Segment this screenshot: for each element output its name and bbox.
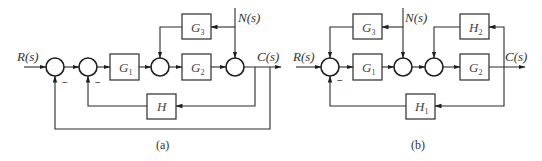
sum-junction-1: [321, 58, 339, 76]
sum-junction-3: [425, 58, 443, 76]
minus-sign: −: [337, 75, 343, 86]
diagram-a: R(s) G1 G2 N(s) G3 C(s) H −: [16, 8, 281, 152]
block-diagrams: R(s) G1 G2 N(s) G3 C(s) H −: [0, 0, 542, 161]
sum-junction-4: [226, 58, 244, 76]
feedback-line: [489, 27, 504, 67]
sum-junction-1: [46, 58, 64, 76]
disturbance-label-n: N(s): [404, 10, 427, 25]
sum-junction-3: [151, 58, 169, 76]
signal-line: [330, 27, 353, 58]
diagram-b: R(s) G1 G2 C(s) N(s) G3 H2 H: [292, 8, 527, 152]
input-label-r: R(s): [16, 49, 39, 64]
signal-line: [160, 27, 182, 58]
caption-b: (b): [411, 138, 425, 152]
output-label-c: C(s): [257, 49, 279, 64]
sum-junction-2: [394, 58, 412, 76]
sum-junction-2: [79, 58, 97, 76]
signal-line: [434, 27, 460, 58]
disturbance-label-n: N(s): [237, 10, 260, 25]
block-h-label: H: [156, 99, 167, 114]
minus-sign: −: [62, 77, 68, 88]
minus-sign: −: [95, 77, 101, 88]
input-label-r: R(s): [292, 49, 315, 64]
caption-a: (a): [156, 138, 169, 152]
output-label-c: C(s): [505, 49, 527, 64]
